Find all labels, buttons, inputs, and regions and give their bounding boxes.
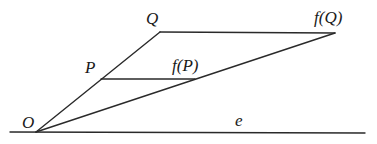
segment-O-fQ (36, 33, 335, 132)
label-fQ: f(Q) (314, 8, 343, 27)
geometry-figure: O P Q f(P) f(Q) e (0, 0, 377, 144)
label-P: P (84, 58, 95, 77)
line-e (10, 132, 365, 133)
segment-O-Q (36, 32, 160, 132)
label-Q: Q (146, 9, 158, 28)
label-e: e (235, 111, 243, 130)
segment-Q-fQ (160, 32, 335, 33)
diagram-canvas: O P Q f(P) f(Q) e (0, 0, 377, 144)
label-fP: f(P) (172, 56, 199, 75)
label-O: O (22, 113, 34, 132)
